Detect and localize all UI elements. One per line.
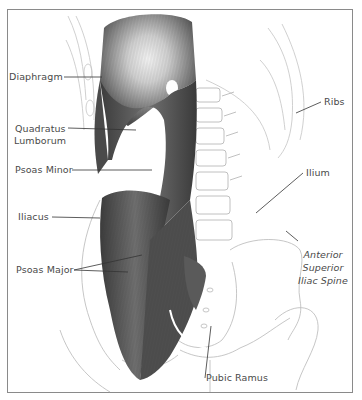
label-iliacus: Iliacus: [18, 211, 49, 223]
label-psoas-minor: Psoas Minor: [15, 164, 73, 176]
label-pubic-ramus: Pubic Ramus: [206, 372, 268, 384]
left-ribs: [66, 16, 94, 130]
label-asis-2: Superior: [300, 262, 346, 274]
label-quadratus-1: Quadratus: [15, 123, 66, 135]
label-ribs: Ribs: [324, 96, 345, 108]
label-diaphragm: Diaphragm: [9, 71, 63, 83]
anatomy-illustration: [0, 0, 362, 400]
label-ilium: Ilium: [306, 167, 330, 179]
label-asis-3: Iliac Spine: [298, 275, 348, 287]
label-quadratus-2: Lumborum: [14, 135, 66, 147]
lumbar-spine: [196, 88, 242, 240]
label-psoas-major: Psoas Major: [16, 264, 74, 276]
label-asis-1: Anterior: [300, 249, 346, 261]
